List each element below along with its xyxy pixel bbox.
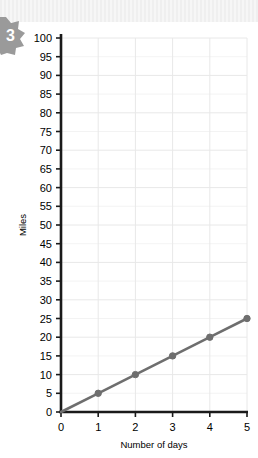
data-point-marker <box>207 334 213 340</box>
x-axis-tick-label: 0 <box>58 421 64 433</box>
x-axis-tick-label: 1 <box>95 421 101 433</box>
y-axis-tick-label: 100 <box>34 32 52 44</box>
y-axis-tick-label: 50 <box>40 219 52 231</box>
y-axis-tick-label: 90 <box>40 69 52 81</box>
x-axis-tick-label: 2 <box>132 421 138 433</box>
y-axis-tick-label: 80 <box>40 107 52 119</box>
y-axis-tick-label: 95 <box>40 51 52 63</box>
y-axis-tick-labels: 0510152025303540455055606570758085909510… <box>34 32 52 418</box>
chart-canvas: 0510152025303540455055606570758085909510… <box>0 22 258 458</box>
data-point-marker <box>132 371 138 377</box>
y-axis-tick-label: 45 <box>40 238 52 250</box>
y-axis-tick-label: 70 <box>40 144 52 156</box>
y-axis-tick-label: 55 <box>40 200 52 212</box>
x-axis-tick-label: 5 <box>244 421 250 433</box>
y-axis-tick-label: 20 <box>40 331 52 343</box>
y-axis-tick-label: 85 <box>40 88 52 100</box>
x-axis-tick-label: 4 <box>207 421 213 433</box>
data-point-marker <box>169 353 175 359</box>
y-axis-tick-label: 5 <box>46 387 52 399</box>
line-chart: 0510152025303540455055606570758085909510… <box>0 22 258 458</box>
chart-page: 3 05101520253035404550556065707580859095… <box>0 0 258 458</box>
y-axis-title: Miles <box>17 214 28 236</box>
y-axis-tick-label: 40 <box>40 256 52 268</box>
y-axis-tick-label: 10 <box>40 369 52 381</box>
data-point-marker <box>244 315 250 321</box>
y-axis-tick-label: 15 <box>40 350 52 362</box>
y-axis-tick-label: 25 <box>40 313 52 325</box>
y-axis-tick-label: 0 <box>46 406 52 418</box>
x-axis-tick-label: 3 <box>170 421 176 433</box>
y-axis-tick-label: 65 <box>40 163 52 175</box>
x-axis-tick-labels: 012345 <box>58 421 250 433</box>
y-axis-tick-label: 60 <box>40 182 52 194</box>
y-axis-tick-label: 75 <box>40 126 52 138</box>
data-point-marker <box>95 390 101 396</box>
y-axis-tick-label: 35 <box>40 275 52 287</box>
y-axis-tick-label: 30 <box>40 294 52 306</box>
y-axis-ticks <box>56 38 61 412</box>
decorative-top-band <box>0 0 258 22</box>
x-axis-title: Number of days <box>120 439 187 450</box>
